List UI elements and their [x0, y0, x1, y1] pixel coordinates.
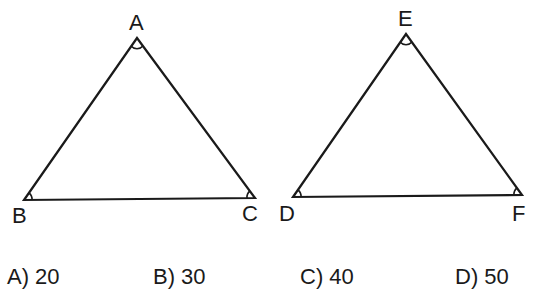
triangle-def	[293, 34, 522, 197]
vertex-label-c: C	[242, 203, 258, 225]
angle-arc-e	[400, 42, 412, 45]
option-b: B) 30	[153, 266, 206, 288]
option-a: A) 20	[7, 266, 60, 288]
vertex-label-d: D	[279, 203, 295, 225]
vertex-label-e: E	[398, 8, 413, 30]
vertex-label-b: B	[12, 205, 27, 227]
vertex-label-a: A	[129, 12, 144, 34]
triangle-abc	[24, 38, 255, 200]
vertex-label-f: F	[512, 203, 525, 225]
option-c: C) 40	[300, 266, 354, 288]
option-d: D) 50	[455, 266, 509, 288]
triangles-figure	[0, 0, 544, 295]
angle-arc-a	[131, 46, 143, 49]
